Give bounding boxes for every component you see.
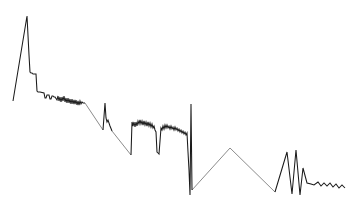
waveform-plot xyxy=(0,0,362,216)
chart-canvas xyxy=(0,0,362,216)
